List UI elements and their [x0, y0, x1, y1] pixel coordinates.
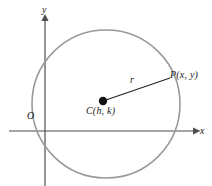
x-axis-label: x: [200, 126, 204, 136]
y-axis: [41, 14, 48, 186]
y-axis-arrowhead-icon: [41, 14, 48, 21]
point-on-circle-label: P(x, y): [170, 70, 198, 80]
diagram-canvas: [0, 0, 212, 186]
radius-label: r: [130, 75, 134, 85]
circle-coordinate-diagram: y x O r C(h, k) P(x, y): [0, 0, 212, 186]
y-axis-label: y: [42, 5, 46, 15]
center-point-marker: [99, 97, 107, 105]
circle-center-label: C(h, k): [86, 106, 115, 116]
radius-segment: [103, 78, 170, 101]
origin-label: O: [27, 111, 34, 121]
circle-shape: [32, 30, 180, 178]
